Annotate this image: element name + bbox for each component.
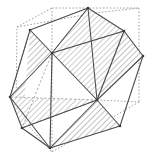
vertex-v-upper-left — [29, 29, 32, 32]
vertex-v-upper-right — [123, 30, 126, 33]
vertex-v-center-left — [51, 52, 54, 55]
polyhedron-diagram — [0, 0, 152, 160]
vertex-v-left — [9, 96, 12, 99]
vertex-v-center-right — [96, 99, 99, 102]
vertex-v-bottom — [49, 147, 52, 150]
vertex-v-lower-left — [21, 127, 24, 130]
vertex-v-top — [87, 7, 90, 10]
vertex-v-lower-right — [119, 125, 122, 128]
figure-container — [0, 0, 152, 160]
vertex-v-far-right — [142, 55, 145, 58]
